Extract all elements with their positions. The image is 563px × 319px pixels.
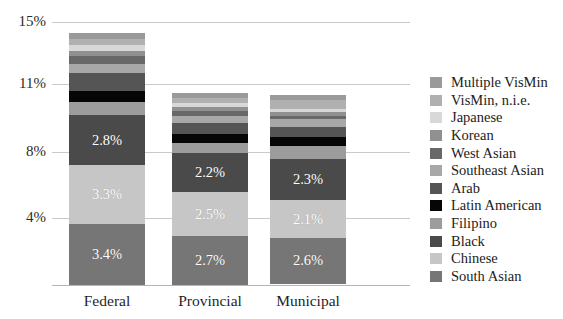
legend-item-label: Arab [451,181,480,196]
legend-item[interactable]: Japanese [430,109,548,127]
bar-segment[interactable]: 2.6% [270,238,346,284]
legend-item[interactable]: West Asian [430,144,548,162]
bar-segment[interactable]: 2.8% [69,115,145,165]
y-axis-tick-label: 15% [2,14,46,29]
bar-segment[interactable] [270,146,346,159]
x-axis-tick-label: Municipal [248,292,368,310]
bar-segment[interactable] [69,56,145,63]
bar-segment[interactable] [270,127,346,137]
legend-item-label: West Asian [451,146,516,161]
bar-federal[interactable]: 2.8%3.3%3.4% [69,33,145,285]
legend-swatch-icon [430,77,442,88]
legend-item[interactable]: Southeast Asian [430,162,548,180]
bar-segment-value-label: 2.3% [293,172,323,187]
bar-segment-value-label: 2.1% [293,212,323,227]
bar-segment-value-label: 2.6% [293,253,323,268]
gridline [52,22,410,23]
x-axis-tick-label: Federal [47,292,167,310]
legend-swatch-icon [430,112,442,123]
bar-segment[interactable]: 3.3% [69,165,145,224]
bar-segment[interactable] [270,119,346,127]
bar-segment[interactable] [69,73,145,91]
legend-item[interactable]: Latin American [430,197,548,215]
legend-swatch-icon [430,165,442,176]
bar-segment-value-label: 2.8% [92,133,122,148]
legend-item[interactable]: Chinese [430,250,548,268]
bar-segment-value-label: 3.3% [92,187,122,202]
legend-item-label: South Asian [451,269,522,284]
bar-segment[interactable] [270,100,346,109]
bar-segment[interactable] [172,123,248,134]
legend-item-label: Multiple VisMin [451,75,548,90]
legend-swatch-icon [430,130,442,141]
stacked-bar-chart: 15%11%8%4% 2.8%3.3%3.4%2.2%2.5%2.7%2.3%2… [0,0,563,319]
y-axis-tick-label: 8% [2,144,46,159]
legend-swatch-icon [430,148,442,159]
bar-segment[interactable] [69,91,145,102]
plot-area: 15%11%8%4% 2.8%3.3%3.4%2.2%2.5%2.7%2.3%2… [0,0,420,319]
bar-segment[interactable]: 3.4% [69,224,145,285]
legend-item[interactable]: South Asian [430,268,548,286]
bar-segment[interactable]: 2.3% [270,159,346,200]
legend-item-label: Japanese [451,110,503,125]
legend-item[interactable]: Black [430,232,548,250]
legend-item-label: Korean [451,128,494,143]
bar-segment-value-label: 2.7% [195,253,225,268]
legend-item-label: VisMin, n.i.e. [451,93,530,108]
bar-segment[interactable] [172,116,248,123]
chart-legend: Multiple VisMinVisMin, n.i.e.JapaneseKor… [430,74,548,285]
bar-segment-value-label: 2.5% [195,207,225,222]
bar-segment[interactable]: 2.7% [172,236,248,284]
bar-segment[interactable]: 2.1% [270,200,346,238]
bar-segment-value-label: 3.4% [92,247,122,262]
legend-item[interactable]: Filipino [430,215,548,233]
legend-swatch-icon [430,271,442,282]
legend-item[interactable]: Arab [430,180,548,198]
bar-segment[interactable] [270,137,346,146]
legend-swatch-icon [430,253,442,264]
bar-segment[interactable]: 2.5% [172,192,248,237]
axis-baseline [52,285,410,286]
legend-swatch-icon [430,95,442,106]
bar-segment[interactable] [172,134,248,142]
legend-item-label: Latin American [451,198,542,213]
legend-item[interactable]: Multiple VisMin [430,74,548,92]
legend-swatch-icon [430,218,442,229]
bar-segment-value-label: 2.2% [195,165,225,180]
bar-segment[interactable] [69,64,145,73]
y-axis-tick-label: 11% [2,76,46,91]
legend-item-label: Black [451,234,485,249]
bar-segment[interactable] [69,102,145,115]
legend-item[interactable]: Korean [430,127,548,145]
bar-segment[interactable]: 2.2% [172,153,248,192]
legend-swatch-icon [430,200,442,211]
bar-provincial[interactable]: 2.2%2.5%2.7% [172,93,248,285]
legend-item-label: Southeast Asian [451,163,544,178]
legend-swatch-icon [430,236,442,247]
y-axis-tick-label: 4% [2,210,46,225]
legend-item-label: Filipino [451,216,497,231]
legend-swatch-icon [430,183,442,194]
legend-item[interactable]: VisMin, n.i.e. [430,92,548,110]
bar-municipal[interactable]: 2.3%2.1%2.6% [270,95,346,285]
legend-item-label: Chinese [451,251,498,266]
bar-segment[interactable] [172,143,248,153]
